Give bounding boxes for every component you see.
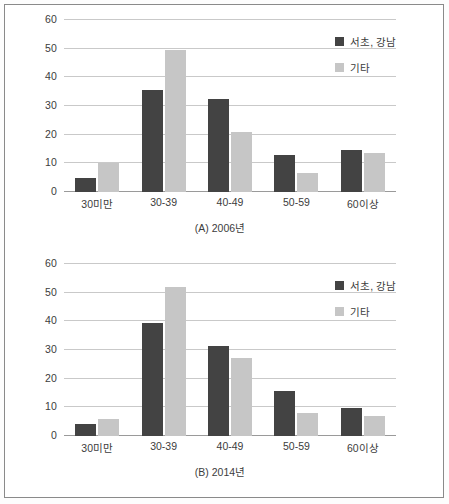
bar-group [197,20,263,192]
y-axis-tick-label: 0 [51,429,57,441]
legend-item-label: 서초, 강남 [350,278,396,293]
bar-group [130,264,196,436]
bar[interactable] [297,413,318,437]
chart-2014: 0102030405060 서초, 강남 기타 30미만30-3940-4950… [0,250,440,490]
y-axis-tick-label: 30 [45,343,57,355]
legend-item-seocho-gangnam: 서초, 강남 [335,34,396,49]
chart-caption-2006: (A) 2006년 [0,220,440,235]
bar-group [130,20,196,192]
bar-group [263,20,329,192]
legend-item-label: 기타 [350,304,370,319]
bar[interactable] [341,150,362,192]
bar[interactable] [142,323,163,436]
square-swatch-icon [335,37,344,46]
x-axis-tick-label: 40-49 [197,196,263,211]
legend-item-other: 기타 [335,60,396,75]
bar[interactable] [364,153,385,192]
bar[interactable] [231,132,252,192]
bar[interactable] [98,163,119,192]
y-axis-tick-label: 20 [45,128,57,140]
x-axis-labels-2006: 30미만30-3940-4950-5960이상 [64,196,396,211]
y-axis-tick-label: 0 [51,185,57,197]
x-axis-labels-2014: 30미만30-3940-4950-5960이상 [64,440,396,455]
bar[interactable] [231,358,252,436]
bar[interactable] [297,173,318,192]
legend-2006: 서초, 강남 기타 [335,34,396,75]
bar-group [64,20,130,192]
x-axis-tick-label: 60이상 [330,196,396,211]
bar[interactable] [274,391,295,436]
y-axis-tick-label: 20 [45,372,57,384]
legend-item-label: 기타 [350,60,370,75]
bar-group [263,264,329,436]
x-axis-tick-label: 30미만 [64,196,130,211]
legend-item-label: 서초, 강남 [350,34,396,49]
x-axis-tick-label: 50-59 [263,196,329,211]
plot-wrap-2006: 0102030405060 서초, 강남 기타 30미만30-3940-4950… [0,6,440,206]
x-axis-tick-label: 60이상 [330,440,396,455]
bar[interactable] [364,416,385,436]
bar[interactable] [98,419,119,436]
bar[interactable] [341,408,362,436]
square-swatch-icon [335,307,344,316]
chart-caption-2014: (B) 2014년 [0,464,440,479]
y-axis-tick-label: 10 [45,156,57,168]
square-swatch-icon [335,281,344,290]
legend-2014: 서초, 강남 기타 [335,278,396,319]
bar-group [64,264,130,436]
bar[interactable] [165,50,186,192]
figure-page: 0102030405060 서초, 강남 기타 30미만30-3940-4950… [0,0,449,504]
legend-item-seocho-gangnam: 서초, 강남 [335,278,396,293]
y-axis-tick-label: 30 [45,99,57,111]
y-axis-tick-label: 40 [45,314,57,326]
bar[interactable] [142,90,163,192]
plot-wrap-2014: 0102030405060 서초, 강남 기타 30미만30-3940-4950… [0,250,440,450]
y-axis-tick-label: 60 [45,257,57,269]
bar[interactable] [274,155,295,192]
y-axis-tick-label: 50 [45,286,57,298]
bar[interactable] [165,287,186,436]
x-axis-tick-label: 30미만 [64,440,130,455]
x-axis-tick-label: 30-39 [130,196,196,211]
bar-group [197,264,263,436]
legend-item-other: 기타 [335,304,396,319]
chart-2006: 0102030405060 서초, 강남 기타 30미만30-3940-4950… [0,6,440,246]
y-axis-tick-label: 60 [45,13,57,25]
square-swatch-icon [335,63,344,72]
bar[interactable] [75,424,96,436]
bar[interactable] [208,99,229,192]
bar[interactable] [208,346,229,436]
x-axis-tick-label: 50-59 [263,440,329,455]
x-axis-tick-label: 30-39 [130,440,196,455]
y-axis-tick-label: 50 [45,42,57,54]
x-axis-tick-label: 40-49 [197,440,263,455]
y-axis-tick-label: 10 [45,400,57,412]
y-axis-tick-label: 40 [45,70,57,82]
bar[interactable] [75,178,96,192]
